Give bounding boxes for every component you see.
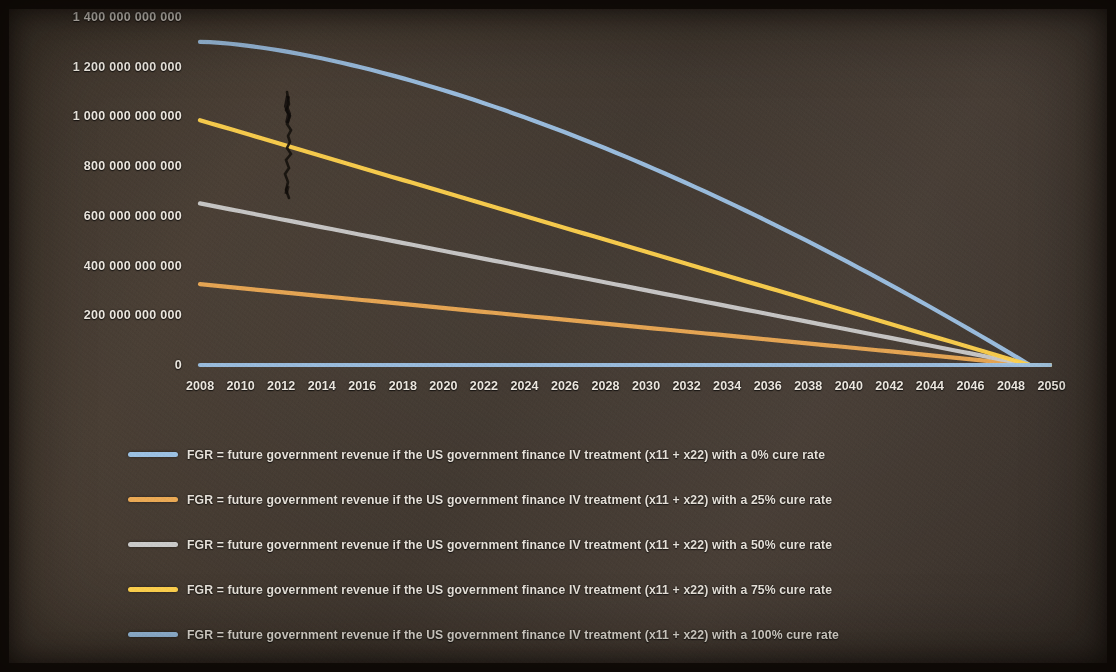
- x-axis-tick-label: 2010: [227, 379, 255, 393]
- legend-color-swatch: [128, 497, 178, 502]
- x-axis-tick-labels: 2008201020122014201620182020202220242026…: [186, 379, 1066, 399]
- series-line-50-cure-rate: [200, 203, 1050, 365]
- legend-color-swatch: [128, 452, 178, 457]
- y-axis-tick-label: 600 000 000 000: [84, 209, 182, 223]
- x-axis-tick-label: 2040: [835, 379, 863, 393]
- x-axis-tick-label: 2032: [673, 379, 701, 393]
- x-axis-tick-label: 2008: [186, 379, 214, 393]
- x-axis-tick-label: 2018: [389, 379, 417, 393]
- series-line-0-cure-rate: [200, 42, 1050, 365]
- y-axis-tick-label: 400 000 000 000: [84, 259, 182, 273]
- x-axis-tick-label: 2028: [591, 379, 619, 393]
- y-axis-tick-label: 1 400 000 000 000: [73, 10, 182, 24]
- x-axis-tick-label: 2014: [308, 379, 336, 393]
- series-line-25-cure-rate: [200, 284, 1050, 365]
- legend-item: FGR = future government revenue if the U…: [128, 567, 1058, 612]
- x-axis-tick-label: 2030: [632, 379, 660, 393]
- y-axis-tick-label: 1 000 000 000 000: [73, 109, 182, 123]
- photographed-slide: 1 400 000 000 0001 200 000 000 0001 000 …: [0, 0, 1116, 672]
- x-axis-tick-label: 2044: [916, 379, 944, 393]
- x-axis-tick-label: 2036: [754, 379, 782, 393]
- x-axis-tick-label: 2026: [551, 379, 579, 393]
- legend-item: FGR = future government revenue if the U…: [128, 432, 1058, 477]
- legend-item-label: FGR = future government revenue if the U…: [187, 583, 832, 597]
- legend-item: FGR = future government revenue if the U…: [128, 522, 1058, 567]
- legend-item: FGR = future government revenue if the U…: [128, 612, 1058, 657]
- x-axis-tick-label: 2016: [348, 379, 376, 393]
- x-axis-tick-label: 2034: [713, 379, 741, 393]
- y-axis-tick-label: 200 000 000 000: [84, 308, 182, 322]
- legend-item-label: FGR = future government revenue if the U…: [187, 493, 832, 507]
- x-axis-tick-label: 2042: [875, 379, 903, 393]
- legend-item-label: FGR = future government revenue if the U…: [187, 448, 825, 462]
- x-axis-tick-label: 2024: [510, 379, 538, 393]
- legend-color-swatch: [128, 632, 178, 637]
- x-axis-tick-label: 2022: [470, 379, 498, 393]
- legend-item-label: FGR = future government revenue if the U…: [187, 538, 832, 552]
- legend-color-swatch: [128, 587, 178, 592]
- chart-legend: FGR = future government revenue if the U…: [128, 432, 1058, 657]
- x-axis-tick-label: 2046: [956, 379, 984, 393]
- legend-item-label: FGR = future government revenue if the U…: [187, 628, 839, 642]
- x-axis-tick-label: 2048: [997, 379, 1025, 393]
- y-axis-tick-label: 1 200 000 000 000: [73, 60, 182, 74]
- x-axis-tick-label: 2012: [267, 379, 295, 393]
- x-axis-tick-label: 2038: [794, 379, 822, 393]
- y-axis-tick-label: 800 000 000 000: [84, 159, 182, 173]
- x-axis-tick-label: 2050: [1037, 379, 1065, 393]
- y-axis-tick-label: 0: [175, 358, 182, 372]
- legend-item: FGR = future government revenue if the U…: [128, 477, 1058, 522]
- x-axis-tick-label: 2020: [429, 379, 457, 393]
- legend-color-swatch: [128, 542, 178, 547]
